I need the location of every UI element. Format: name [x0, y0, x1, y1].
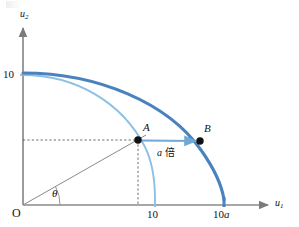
x-tick-label-10: 10: [147, 209, 158, 220]
y-tick-label-10: 10: [3, 69, 14, 80]
x-tick-label-10a: 10a: [213, 209, 230, 220]
y-axis-label: u2: [20, 9, 29, 21]
curve-inner-frontier: [23, 75, 155, 200]
point-a-label: A: [143, 122, 150, 133]
ray-through-a: [23, 135, 146, 205]
x-axis-label: u1: [275, 198, 284, 210]
origin-label: O: [12, 207, 21, 219]
multiplier-unit: 倍: [165, 147, 175, 158]
figure-canvas: u2 u1 10 10 10a O θ A B a 倍: [0, 0, 299, 227]
curve-outer-frontier: [23, 73, 224, 200]
multiplier-annotation: a 倍: [157, 148, 175, 158]
diagram-svg: [0, 0, 299, 227]
point-b-label: B: [204, 123, 211, 134]
angle-label-theta: θ: [52, 188, 57, 199]
arrow-a-to-b: [141, 141, 196, 142]
point-a-marker[interactable]: [134, 136, 141, 143]
point-b-marker[interactable]: [196, 137, 203, 144]
